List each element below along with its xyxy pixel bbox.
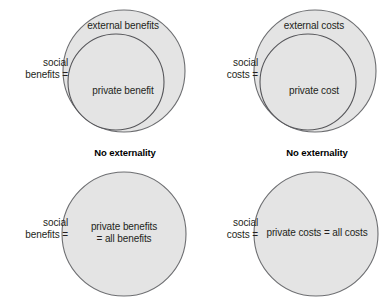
label-private-benefits-all-benefits: private benefits = all benefits: [62, 221, 186, 244]
label-external-benefits: external benefits: [62, 20, 184, 32]
label-private-costs-all-costs: private costs = all costs: [250, 227, 384, 239]
inner-circle-private-cost: [260, 34, 356, 130]
side-label-social-benefits-top: social benefits =: [2, 57, 68, 80]
side-label-social-benefits-bottom: social benefits =: [2, 217, 68, 240]
externality-venn-diagram: social benefits = external benefits priv…: [0, 0, 385, 301]
caption-no-externality-right: No externality: [257, 147, 377, 158]
label-private-cost: private cost: [253, 85, 375, 97]
inner-circle-private-benefit: [68, 34, 164, 130]
side-label-social-costs-bottom: social costs =: [192, 217, 258, 240]
side-label-social-costs-top: social costs =: [192, 57, 258, 80]
label-external-costs: external costs: [253, 20, 375, 32]
label-private-benefit: private benefit: [62, 85, 184, 97]
caption-no-externality-left: No externality: [65, 147, 185, 158]
